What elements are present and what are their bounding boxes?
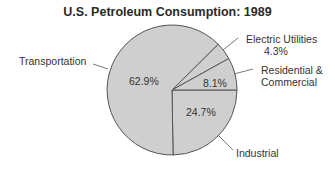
pct-industrial: 24.7% — [186, 106, 216, 118]
slice-industrial — [172, 90, 237, 155]
label-electric-utilities: Electric Utilities — [246, 33, 317, 45]
pie-chart — [0, 0, 335, 176]
pct-transportation: 62.9% — [129, 75, 159, 87]
label-electric-pct: 4.3% — [264, 45, 288, 57]
label-residential-1: Residential & — [261, 64, 323, 76]
leader-electric — [223, 38, 238, 50]
label-residential-2: Commercial — [261, 76, 317, 88]
label-transportation: Transportation — [19, 55, 86, 67]
pct-residential: 8.1% — [203, 77, 227, 89]
leader-industrial — [218, 135, 233, 150]
leader-transportation — [93, 64, 108, 69]
leader-residential — [234, 69, 253, 74]
label-industrial: Industrial — [236, 147, 279, 159]
